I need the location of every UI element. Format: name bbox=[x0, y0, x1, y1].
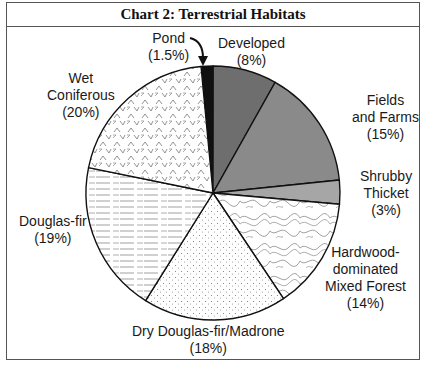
label-fields-name1: Fields bbox=[352, 92, 419, 109]
label-hardwood-name2: dominated bbox=[325, 261, 406, 278]
pie-slices bbox=[86, 66, 340, 320]
label-douglas-name: Douglas-fir bbox=[19, 213, 87, 230]
label-hardwood-pct: (14%) bbox=[325, 295, 406, 312]
pond-arrow bbox=[190, 38, 203, 58]
label-fields-pct: (15%) bbox=[352, 126, 419, 143]
label-dry-name: Dry Douglas-fir/Madrone bbox=[132, 323, 285, 340]
label-fields-name2: and Farms bbox=[352, 109, 419, 126]
pond-arrow-head bbox=[198, 56, 208, 66]
label-fields: Fields and Farms (15%) bbox=[352, 92, 419, 143]
label-shrubby-name2: Thicket bbox=[360, 185, 412, 202]
label-pond: Pond (1.5%) bbox=[148, 30, 189, 64]
label-wet-coniferous: Wet Coniferous (20%) bbox=[47, 70, 115, 121]
label-hardwood-name1: Hardwood- bbox=[325, 244, 406, 261]
label-hardwood: Hardwood- dominated Mixed Forest (14%) bbox=[325, 244, 406, 312]
label-developed: Developed (8%) bbox=[218, 35, 285, 69]
label-dry-douglas-fir: Dry Douglas-fir/Madrone (18%) bbox=[132, 323, 285, 357]
label-pond-pct: (1.5%) bbox=[148, 47, 189, 64]
label-pond-name: Pond bbox=[148, 30, 189, 47]
label-shrubby: Shrubby Thicket (3%) bbox=[360, 168, 412, 219]
label-developed-pct: (8%) bbox=[218, 52, 285, 69]
label-wet-name1: Wet bbox=[47, 70, 115, 87]
label-shrubby-name1: Shrubby bbox=[360, 168, 412, 185]
label-developed-name: Developed bbox=[218, 35, 285, 52]
label-douglas-pct: (19%) bbox=[19, 230, 87, 247]
label-dry-pct: (18%) bbox=[132, 340, 285, 357]
label-wet-pct: (20%) bbox=[47, 104, 115, 121]
label-douglas-fir: Douglas-fir (19%) bbox=[19, 213, 87, 247]
label-shrubby-pct: (3%) bbox=[360, 202, 412, 219]
label-wet-name2: Coniferous bbox=[47, 87, 115, 104]
label-hardwood-name3: Mixed Forest bbox=[325, 278, 406, 295]
